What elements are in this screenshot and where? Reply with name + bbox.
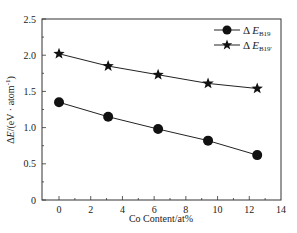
legend-label: Δ EB19'	[243, 39, 272, 53]
star-marker	[152, 69, 163, 80]
data-series	[53, 48, 263, 160]
circle-marker	[153, 124, 163, 134]
y-tick-label: 0	[31, 195, 36, 206]
x-tick-label: 14	[276, 204, 286, 215]
legend: Δ EB19Δ EB19'	[214, 24, 272, 53]
legend-circle-icon	[223, 26, 232, 35]
x-axis-label: Co Content/at%	[129, 213, 193, 224]
circle-marker	[203, 136, 213, 146]
x-tick-label: 2	[88, 204, 93, 215]
line-chart: 0246810121400.51.01.52.02.5 Δ EB19Δ EB19…	[0, 0, 297, 233]
star-marker	[202, 77, 213, 88]
circle-marker	[103, 112, 113, 122]
y-tick-label: 0.5	[24, 158, 37, 169]
x-tick-label: 10	[213, 204, 223, 215]
x-tick-label: 4	[120, 204, 125, 215]
star-marker	[222, 40, 232, 50]
circle-marker	[54, 97, 64, 107]
star-marker	[252, 83, 263, 94]
series-star	[53, 48, 263, 94]
x-tick-label: 12	[244, 204, 254, 215]
legend-label: Δ EB19	[243, 24, 271, 38]
series-circle	[54, 97, 262, 160]
y-tick-label: 1.0	[24, 122, 37, 133]
circle-marker	[252, 150, 262, 160]
star-marker	[102, 60, 113, 71]
y-tick-label: 2.0	[24, 50, 37, 61]
y-tick-label: 2.5	[24, 14, 37, 25]
star-marker	[53, 48, 64, 59]
y-tick-label: 1.5	[24, 86, 37, 97]
y-axis-label: ΔE/(eV · atom-1)	[4, 76, 17, 144]
x-tick-label: 0	[57, 204, 62, 215]
